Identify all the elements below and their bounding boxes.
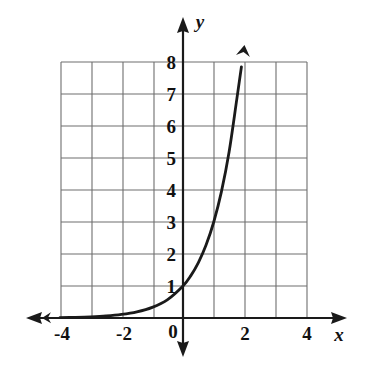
y-tick-label-2: 2 (167, 244, 177, 265)
x-axis-right-arrowhead (331, 312, 347, 324)
x-tick-label-2: 2 (240, 323, 250, 344)
y-axis-bottom-arrowhead (177, 341, 189, 357)
y-axis (177, 17, 189, 357)
x-axis-label: x (333, 324, 344, 345)
y-tick-label-5: 5 (167, 148, 177, 169)
y-tick-label-4: 4 (167, 180, 177, 201)
coordinate-plane-svg: 8 7 6 5 4 3 2 1 -4 -2 0 2 4 x y (0, 0, 379, 377)
y-tick-label-6: 6 (167, 116, 177, 137)
y-tick-label-3: 3 (167, 212, 177, 233)
x-tick-label--2: -2 (116, 323, 132, 344)
curve-upper-arrowhead (236, 45, 250, 57)
y-tick-label-8: 8 (167, 52, 177, 73)
graph-figure: 8 7 6 5 4 3 2 1 -4 -2 0 2 4 x y (0, 0, 379, 377)
x-tick-label-0: 0 (168, 321, 178, 342)
y-tick-labels: 8 7 6 5 4 3 2 1 (167, 52, 177, 297)
y-tick-label-7: 7 (167, 84, 177, 105)
exponential-curve (42, 45, 250, 323)
x-tick-label--4: -4 (54, 323, 70, 344)
y-tick-label-1: 1 (167, 276, 177, 297)
x-axis-left-arrowhead (26, 312, 42, 324)
y-axis-label: y (194, 11, 205, 32)
x-tick-label-4: 4 (302, 323, 312, 344)
y-axis-top-arrowhead (177, 17, 189, 33)
